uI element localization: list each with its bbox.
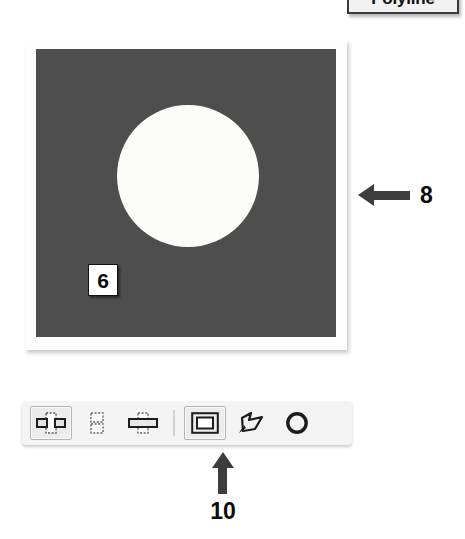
shape-tools-toolbar[interactable] — [22, 401, 352, 445]
annotation-10: 10 — [196, 452, 250, 526]
callout-label-6: 6 — [88, 264, 118, 296]
toolbar-polyline-tool[interactable] — [230, 406, 272, 440]
rectangle-tool-icon — [191, 412, 219, 434]
toolbar-rectangle-tool[interactable] — [184, 406, 226, 440]
polyline-tool-icon — [237, 411, 265, 435]
canvas-frame[interactable]: 6 — [25, 40, 347, 350]
toolbar-split-vertical-tool[interactable] — [30, 406, 72, 440]
toolbar-split-horizontal-tool[interactable] — [122, 406, 164, 440]
toolbar-stack-vertical-tool[interactable] — [76, 406, 118, 440]
stack-vertical-icon — [89, 412, 105, 434]
annotation-8-number: 8 — [420, 184, 433, 207]
polyline-tooltip: Polyline — [347, 0, 459, 14]
arrow-up-icon — [212, 452, 234, 494]
circle-shape[interactable] — [117, 105, 259, 247]
ellipse-tool-icon — [285, 411, 309, 435]
callout-label-6-text: 6 — [97, 270, 109, 291]
polyline-tooltip-label: Polyline — [371, 0, 435, 9]
toolbar-separator — [173, 410, 175, 436]
arrow-left-icon — [358, 184, 410, 206]
annotation-8: 8 — [358, 177, 458, 213]
annotation-10-number: 10 — [210, 500, 236, 523]
toolbar-ellipse-tool[interactable] — [276, 406, 318, 440]
split-horizontal-icon — [128, 412, 158, 434]
split-vertical-icon — [36, 412, 66, 434]
canvas-image-area[interactable]: 6 — [36, 49, 336, 337]
